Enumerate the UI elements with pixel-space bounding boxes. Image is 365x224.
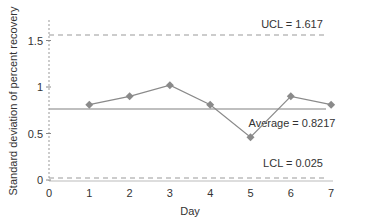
y-tick-label: 0.5 xyxy=(28,128,43,140)
x-tick-label: 7 xyxy=(328,187,334,199)
diamond-marker xyxy=(85,101,93,109)
x-tick-label: 6 xyxy=(288,187,294,199)
y-tick-label: 1.5 xyxy=(28,35,43,47)
x-tick-label: 0 xyxy=(46,187,52,199)
ucl-label: UCL = 1.617 xyxy=(261,18,323,30)
series-line xyxy=(89,85,331,137)
diamond-marker xyxy=(126,92,134,100)
y-ticks: 00.511.5 xyxy=(28,35,51,187)
diamond-marker xyxy=(327,101,335,109)
x-axis-label: Day xyxy=(180,205,200,217)
average-label: Average = 0.8217 xyxy=(249,117,336,129)
x-tick-label: 2 xyxy=(127,187,133,199)
x-tick-label: 3 xyxy=(167,187,173,199)
lcl-label: LCL = 0.025 xyxy=(263,157,323,169)
control-chart: 00.511.5 01234567 UCL = 1.617Average = 0… xyxy=(0,0,365,224)
y-tick-label: 0 xyxy=(37,174,43,186)
diamond-marker xyxy=(166,81,174,89)
y-axis-label: Standard deviation of percent recovery xyxy=(7,6,19,195)
y-tick-label: 1 xyxy=(37,81,43,93)
data-series xyxy=(85,81,335,141)
x-tick-label: 1 xyxy=(86,187,92,199)
x-ticks: 01234567 xyxy=(46,187,334,199)
x-tick-label: 4 xyxy=(207,187,213,199)
x-tick-label: 5 xyxy=(247,187,253,199)
